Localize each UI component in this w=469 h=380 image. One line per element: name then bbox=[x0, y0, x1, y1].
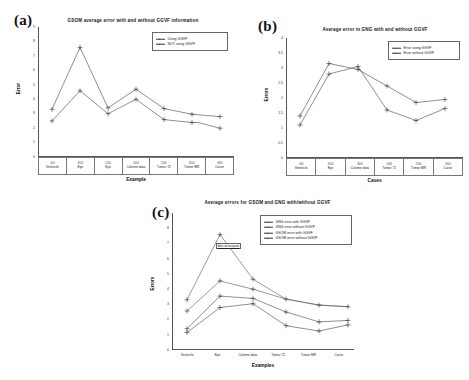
x-category-cell: 1600 Tumor 72 bbox=[375, 159, 404, 175]
panel-a-x-strip: 400 Ventricle 3500 Eye 1200 Eye 1600 Col… bbox=[38, 157, 234, 175]
series-line-gng-error-with-ggvf bbox=[187, 296, 348, 329]
x-category-cell: 3400 Tumor MR bbox=[178, 158, 206, 174]
x-category-cell: 400 Ventricle bbox=[287, 159, 316, 175]
x-category-label: Tumor 72 bbox=[382, 166, 396, 170]
x-category-label: Eye bbox=[77, 165, 83, 169]
legend-item[interactable]: + GSOM error with GGVF bbox=[264, 231, 348, 235]
panel-c-x-axis-label: Examples bbox=[172, 363, 354, 368]
legend-line-marker-icon: + bbox=[156, 42, 165, 46]
legend-label: GSOM error without GGVF bbox=[276, 236, 318, 240]
x-category-label: Ventricle bbox=[46, 165, 59, 169]
legend-item[interactable]: + GSOM error without GGVF bbox=[264, 236, 348, 240]
legend-line-marker-icon: + bbox=[264, 225, 273, 229]
x-category-cell: 1800 Curve bbox=[434, 159, 462, 175]
legend-line-marker-icon: + bbox=[264, 231, 273, 235]
x-category-label: Curve bbox=[215, 165, 224, 169]
series-markers bbox=[298, 61, 448, 128]
x-category-label: Ventricle bbox=[172, 353, 202, 357]
legend-label: GNG error without GGVF bbox=[276, 225, 315, 229]
series-markers bbox=[185, 232, 351, 335]
panel-b-x-strip: 400 Ventricle 3500 Eye 3400 Column data … bbox=[286, 158, 463, 176]
x-category-label: Column data bbox=[350, 166, 369, 170]
x-category-label: Column data bbox=[127, 165, 146, 169]
legend-line-marker-icon: + bbox=[264, 220, 273, 224]
panel-a-legend: + Using GGVF + NOT using GGVF bbox=[152, 32, 228, 51]
legend-label: Using GGVF bbox=[168, 37, 188, 41]
x-category-cell: 1800 Curve bbox=[206, 158, 233, 174]
x-category-label: Tumor MR bbox=[293, 353, 323, 357]
legend-label: GSOM error with GGVF bbox=[276, 231, 313, 235]
x-category-cell: 1600 Column data bbox=[123, 158, 151, 174]
legend-item[interactable]: + Using GGVF bbox=[156, 37, 224, 41]
legend-item[interactable]: + Error using GGVF bbox=[392, 46, 456, 50]
x-category-cell: 3500 Eye bbox=[67, 158, 95, 174]
panel-a-x-axis-label: Example bbox=[38, 177, 234, 182]
x-category-label: Curve bbox=[324, 353, 354, 357]
legend-line-marker-icon: + bbox=[392, 51, 401, 55]
legend-item[interactable]: + Error without GGVF bbox=[392, 51, 456, 55]
panel-c-x-labels: Ventricle Eye Column data Tumor 72 Tumor… bbox=[172, 353, 354, 357]
series-line-error-without-ggvf bbox=[300, 67, 445, 126]
x-category-label: Eye bbox=[328, 166, 334, 170]
x-category-cell: 3400 Column data bbox=[346, 159, 375, 175]
x-category-label: Curve bbox=[443, 166, 452, 170]
series-line-gsom-error-with-ggvf bbox=[187, 281, 348, 311]
x-category-label: Eye bbox=[202, 353, 232, 357]
legend-item[interactable]: + GNG error without GGVF bbox=[264, 225, 348, 229]
legend-line-marker-icon: + bbox=[156, 37, 165, 41]
series-line-error-using-ggvf bbox=[300, 64, 445, 117]
panel-a: (a) GSOM average error with and without … bbox=[0, 0, 240, 190]
legend-line-marker-icon: + bbox=[392, 46, 401, 50]
x-category-cell: 400 Ventricle bbox=[39, 158, 67, 174]
x-category-cell: 3500 Eye bbox=[316, 159, 345, 175]
series-line-gsom-error-without-ggvf bbox=[187, 235, 348, 307]
panel-c-legend: + GNG error with GGVF + GNG error withou… bbox=[260, 215, 352, 245]
series-line-not-using-ggvf bbox=[52, 91, 220, 129]
x-category-cell: 1500 Tumor MR bbox=[404, 159, 433, 175]
x-category-label: Tumor MR bbox=[411, 166, 426, 170]
legend-item[interactable]: + GNG error with GGVF bbox=[264, 220, 348, 224]
x-category-cell: 1500 Tumor 72 bbox=[150, 158, 178, 174]
panel-b-plot: 4 3.5 3 2.5 2 1.5 1 0.5 0 Errors + Error bbox=[230, 0, 469, 190]
panel-b-legend: + Error using GGVF + Error without GGVF bbox=[388, 41, 460, 60]
legend-label: GNG error with GGVF bbox=[276, 220, 310, 224]
legend-label: Error using GGVF bbox=[404, 46, 432, 50]
x-category-label: Eye bbox=[105, 165, 111, 169]
x-category-label: Tumor 72 bbox=[263, 353, 293, 357]
panel-c: (c) Average errors for GSOM and GNG with… bbox=[110, 185, 360, 380]
x-category-label: Ventricle bbox=[295, 166, 308, 170]
panel-b-x-axis-label: Cases bbox=[286, 178, 463, 183]
legend-label: Error without GGVF bbox=[404, 51, 435, 55]
x-category-label: Tumor MR bbox=[184, 165, 199, 169]
legend-item[interactable]: + NOT using GGVF bbox=[156, 42, 224, 46]
panel-c-plot: 9 8 7 6 5 4 3 2 1 0 Errors bbox=[110, 185, 360, 380]
legend-label: NOT using GGVF bbox=[168, 42, 196, 46]
series-line-using-ggvf bbox=[52, 47, 220, 116]
x-category-label: Column data bbox=[233, 353, 263, 357]
series-line-gng-error-without-ggvf bbox=[187, 304, 348, 333]
x-category-cell: 1200 Eye bbox=[95, 158, 123, 174]
panel-a-plot: 9 8 7 6 5 4 3 2 1 0 Error bbox=[0, 0, 240, 190]
panel-b: (b) Average error in GNG with and withou… bbox=[230, 0, 469, 190]
panel-c-annotation: Area de busqueda bbox=[216, 243, 241, 249]
legend-line-marker-icon: + bbox=[264, 236, 273, 240]
x-category-label: Tumor 72 bbox=[157, 165, 171, 169]
